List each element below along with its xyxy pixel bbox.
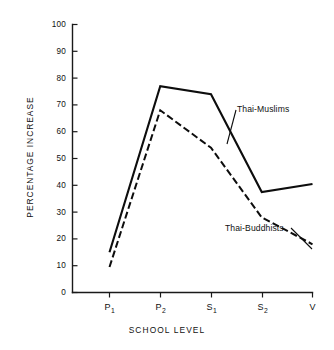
y-tick-label-100: 100 bbox=[44, 21, 66, 29]
x-tick-sub-s1: 1 bbox=[213, 307, 217, 314]
y-tick-label-40: 40 bbox=[44, 182, 66, 190]
y-tick-label-80: 80 bbox=[44, 75, 66, 83]
x-tick-label-s2: S2 bbox=[258, 303, 268, 312]
y-tick-label-50: 50 bbox=[44, 155, 66, 163]
chart-figure: 100 90 80 70 60 50 40 30 20 10 0 P1 P2 S… bbox=[0, 0, 334, 350]
y-tick-label-0: 0 bbox=[44, 289, 66, 297]
y-tick-label-10: 10 bbox=[44, 262, 66, 270]
y-tick-label-30: 30 bbox=[44, 209, 66, 217]
y-tick-label-90: 90 bbox=[44, 48, 66, 56]
x-tick-marks bbox=[110, 293, 313, 298]
x-tick-sub-s2: 2 bbox=[264, 307, 268, 314]
x-tick-label-p2: P2 bbox=[156, 303, 166, 312]
series-label-thai-muslims: Thai-Muslims bbox=[237, 105, 289, 114]
x-tick-sub-p2: 2 bbox=[162, 307, 166, 314]
y-axis-title: PERCENTAGE INCREASE bbox=[25, 72, 35, 242]
x-tick-label-p1: P1 bbox=[105, 303, 115, 312]
y-tick-marks bbox=[73, 25, 78, 293]
x-tick-label-v: V bbox=[309, 303, 315, 312]
x-axis-title: SCHOOL LEVEL bbox=[0, 325, 334, 335]
x-tick-label-s1: S1 bbox=[207, 303, 217, 312]
y-tick-label-60: 60 bbox=[44, 128, 66, 136]
y-tick-label-70: 70 bbox=[44, 101, 66, 109]
series-label-thai-buddhists: Thai-Buddhists bbox=[225, 224, 284, 233]
x-tick-sub-p1: 1 bbox=[111, 307, 115, 314]
y-tick-label-20: 20 bbox=[44, 235, 66, 243]
leader-line-thai-buddhists bbox=[291, 228, 312, 249]
x-tick-base-v: V bbox=[309, 302, 315, 312]
